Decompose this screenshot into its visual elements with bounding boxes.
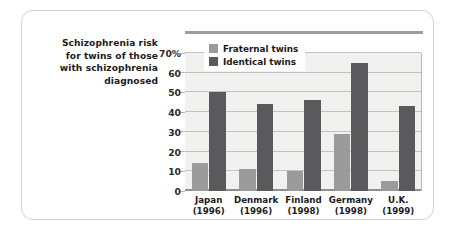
x-label-year: (1998) — [327, 206, 374, 217]
bar-uk-identical[interactable] — [399, 106, 416, 191]
x-axis-label-germany: Germany(1998) — [327, 195, 374, 217]
caption-line: diagnosed — [30, 75, 158, 88]
y-tick-label: 20 — [168, 146, 181, 157]
x-label-year: (1998) — [280, 206, 327, 217]
caption-line: for twins of those — [30, 50, 158, 63]
bar-germany-fraternal[interactable] — [334, 134, 351, 191]
plot-area: 010203040506070% — [185, 53, 422, 191]
bar-finland-identical[interactable] — [304, 100, 321, 191]
x-axis-label-finland: Finland(1998) — [280, 195, 327, 217]
x-label-country: U.K. — [375, 195, 422, 206]
bar-denmark-identical[interactable] — [257, 104, 274, 191]
y-tick-label: 50 — [168, 87, 181, 98]
x-label-year: (1996) — [232, 206, 279, 217]
legend-swatch-fraternal-icon — [209, 44, 218, 53]
y-tick-label: 0 — [175, 186, 181, 197]
legend-item-fraternal: Fraternal twins — [209, 42, 298, 55]
y-tick-label: 60 — [168, 67, 181, 78]
x-label-country: Germany — [327, 195, 374, 206]
bar-denmark-fraternal[interactable] — [239, 169, 256, 191]
caption-line: Schizophrenia risk — [30, 37, 158, 50]
x-label-year: (1999) — [375, 206, 422, 217]
caption-line: with schizophrenia — [30, 62, 158, 75]
y-tick-label: 10 — [168, 166, 181, 177]
x-axis-label-uk: U.K.(1999) — [375, 195, 422, 217]
x-label-year: (1996) — [185, 206, 232, 217]
bar-uk-fraternal[interactable] — [381, 181, 398, 191]
legend-item-identical: Identical twins — [209, 55, 298, 68]
plot-top-rule — [185, 31, 423, 34]
x-axis-label-japan: Japan(1996) — [185, 195, 232, 217]
chart-legend: Fraternal twins Identical twins — [204, 39, 305, 71]
bar-chart: 010203040506070% Japan(1996)Denmark(1996… — [164, 23, 426, 209]
x-axis-label-denmark: Denmark(1996) — [232, 195, 279, 217]
legend-label: Fraternal twins — [223, 44, 298, 54]
x-label-country: Denmark — [232, 195, 279, 206]
y-tick-label: 40 — [168, 107, 181, 118]
legend-swatch-identical-icon — [209, 57, 218, 66]
chart-figure-frame: Schizophrenia risk for twins of those wi… — [21, 10, 434, 220]
bar-japan-fraternal[interactable] — [192, 163, 209, 191]
x-label-country: Japan — [185, 195, 232, 206]
gridline — [185, 72, 421, 73]
x-label-country: Finland — [280, 195, 327, 206]
bar-germany-identical[interactable] — [351, 63, 368, 191]
bar-finland-fraternal[interactable] — [287, 171, 304, 191]
chart-caption: Schizophrenia risk for twins of those wi… — [30, 37, 158, 87]
y-tick-label: 30 — [168, 126, 181, 137]
bar-japan-identical[interactable] — [209, 92, 226, 191]
y-tick-label: 70% — [159, 48, 181, 59]
legend-label: Identical twins — [223, 57, 296, 67]
